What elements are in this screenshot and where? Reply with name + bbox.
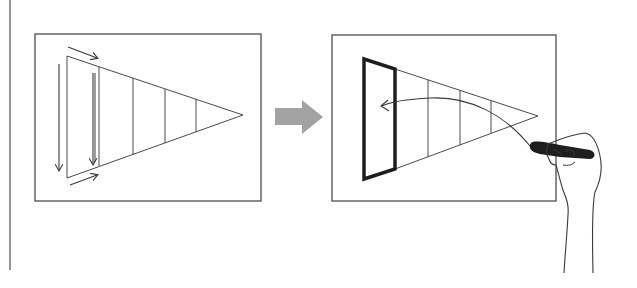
diagram-canvas: [0, 0, 637, 288]
left-panel: [35, 34, 261, 201]
right-panel: [332, 35, 601, 273]
left-panel-frame: [35, 34, 261, 201]
hand-with-marker-icon: [530, 133, 601, 273]
transition-arrow-icon: [275, 100, 323, 134]
